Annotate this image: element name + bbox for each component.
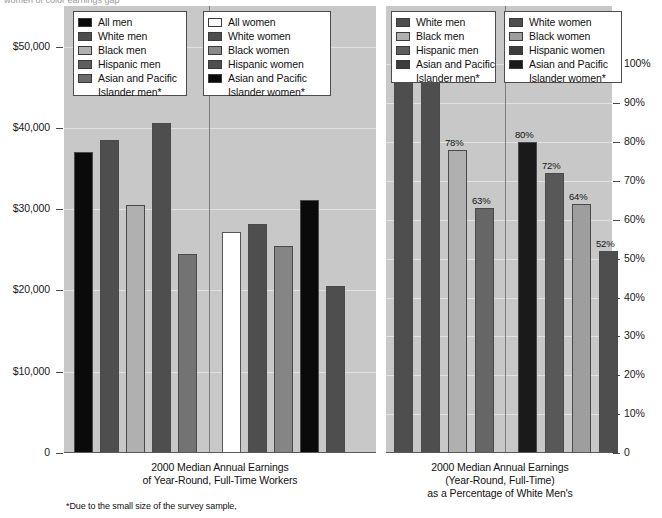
y-axis-tickmark: [613, 220, 620, 221]
bar-value-label: 80%: [515, 129, 533, 140]
legend-item-label: Asian and Pacific: [98, 72, 177, 85]
chart-page: women of color earnings gap $50,000$40,0…: [0, 0, 662, 518]
bar: [126, 205, 145, 453]
earnings-chart-caption: 2000 Median Annual Earningsof Year-Round…: [100, 461, 340, 487]
bar: [421, 45, 440, 453]
legend-item: Black women: [509, 30, 616, 43]
y-axis-tickmark: [56, 47, 63, 48]
legend-swatch-icon: [208, 60, 222, 69]
legend-item: Asian and Pacific: [396, 58, 490, 71]
legend-item-label-continued: Islander women*: [509, 72, 616, 85]
y-axis-tick-label: 60%: [624, 213, 645, 225]
legend-item-label: Hispanic women: [529, 44, 605, 57]
bar: [326, 286, 345, 453]
y-axis-tickmark: [613, 414, 620, 415]
legend-item: White men: [78, 30, 181, 43]
legend-swatch-icon: [78, 32, 92, 41]
y-axis-tickmark: [613, 453, 620, 454]
legend-swatch-icon: [208, 18, 222, 27]
y-axis-tickmark: [56, 453, 63, 454]
legend-swatch-icon: [78, 46, 92, 55]
bar: [222, 232, 241, 453]
cut-off-title-text: women of color earnings gap: [4, 0, 662, 5]
y-axis-tick-label: $30,000: [0, 202, 50, 214]
y-axis-tick-label: 70%: [624, 174, 645, 186]
legend-women-percentage: White womenBlack womenHispanic womenAsia…: [504, 11, 622, 83]
bar: [599, 251, 618, 453]
legend-men-earnings: All menWhite menBlack menHispanic menAsi…: [73, 11, 187, 96]
bar: [248, 224, 267, 453]
legend-item: All women: [208, 16, 325, 29]
caption-line: as a Percentage of White Men's: [390, 487, 610, 500]
y-axis-tick-label: 0: [0, 446, 50, 458]
legend-swatch-icon: [509, 60, 523, 69]
legend-item-label: Black women: [228, 44, 289, 57]
y-axis-tickmark: [613, 375, 620, 376]
bar: [152, 123, 171, 453]
legend-item-label: All men: [98, 16, 132, 29]
legend-item-label: Asian and Pacific: [529, 58, 608, 71]
legend-item: Asian and Pacific: [78, 72, 181, 85]
y-axis-tick-label: 0: [624, 446, 630, 458]
legend-item-label-continued: Islander men*: [78, 86, 181, 99]
legend-item: Black women: [208, 44, 325, 57]
bar-value-label: 64%: [569, 191, 587, 202]
legend-item-label-continued: Islander women*: [208, 86, 325, 99]
bar: [178, 254, 197, 453]
legend-item: Hispanic women: [208, 58, 325, 71]
bar: [74, 152, 93, 453]
legend-men-percentage: White menBlack menHispanic menAsian and …: [391, 11, 496, 83]
legend-item: Asian and Pacific: [509, 58, 616, 71]
legend-item-label: Asian and Pacific: [416, 58, 495, 71]
legend-swatch-icon: [208, 32, 222, 41]
bar: [475, 208, 494, 453]
legend-item: Black men: [396, 30, 490, 43]
legend-item-label: White women: [228, 30, 291, 43]
percentage-chart-caption: 2000 Median Annual Earnings(Year-Round, …: [390, 461, 610, 500]
y-axis-tickmark: [56, 209, 63, 210]
bar: [448, 150, 467, 453]
legend-item-label: Hispanic women: [228, 58, 304, 71]
y-axis-tick-label: 50%: [624, 252, 645, 264]
bar: [572, 204, 591, 453]
legend-item: Hispanic women: [509, 44, 616, 57]
y-axis-tickmark: [56, 372, 63, 373]
legend-item: Asian and Pacific: [208, 72, 325, 85]
y-axis-tick-label: 20%: [624, 368, 645, 380]
legend-swatch-icon: [78, 60, 92, 69]
bar: [545, 173, 564, 453]
bar-value-label: 72%: [542, 160, 560, 171]
y-axis-tick-label: $10,000: [0, 365, 50, 377]
bar-value-label: 52%: [596, 238, 614, 249]
y-axis-tick-label: $20,000: [0, 283, 50, 295]
y-axis-tickmark: [56, 290, 63, 291]
earnings-axis-baseline: [64, 452, 376, 453]
y-axis-tick-label: 40%: [624, 291, 645, 303]
y-axis-tick-label: 30%: [624, 329, 645, 341]
legend-swatch-icon: [509, 18, 523, 27]
legend-swatch-icon: [78, 18, 92, 27]
legend-swatch-icon: [509, 32, 523, 41]
legend-item-label: All women: [228, 16, 276, 29]
y-axis-tick-label: 90%: [624, 96, 645, 108]
legend-swatch-icon: [396, 18, 410, 27]
legend-swatch-icon: [78, 74, 92, 83]
legend-item-label: White men: [98, 30, 147, 43]
legend-swatch-icon: [208, 74, 222, 83]
caption-line: 2000 Median Annual Earnings: [100, 461, 340, 474]
y-axis-tick-label: 80%: [624, 135, 645, 147]
y-axis-tick-label: $50,000: [0, 40, 50, 52]
legend-swatch-icon: [208, 46, 222, 55]
percentage-axis-baseline: [386, 452, 612, 453]
caption-line: (Year-Round, Full-Time): [390, 474, 610, 487]
caption-line: of Year-Round, Full-Time Workers: [100, 474, 340, 487]
legend-item: All men: [78, 16, 181, 29]
legend-item-label: Hispanic men: [98, 58, 160, 71]
legend-item: Hispanic men: [78, 58, 181, 71]
legend-item-label: Asian and Pacific: [228, 72, 307, 85]
y-axis-tick-label: 100%: [624, 57, 650, 69]
y-axis-tickmark: [613, 298, 620, 299]
bar: [394, 64, 413, 453]
bar: [518, 142, 537, 453]
footnote-text: *Due to the small size of the survey sam…: [66, 501, 237, 512]
